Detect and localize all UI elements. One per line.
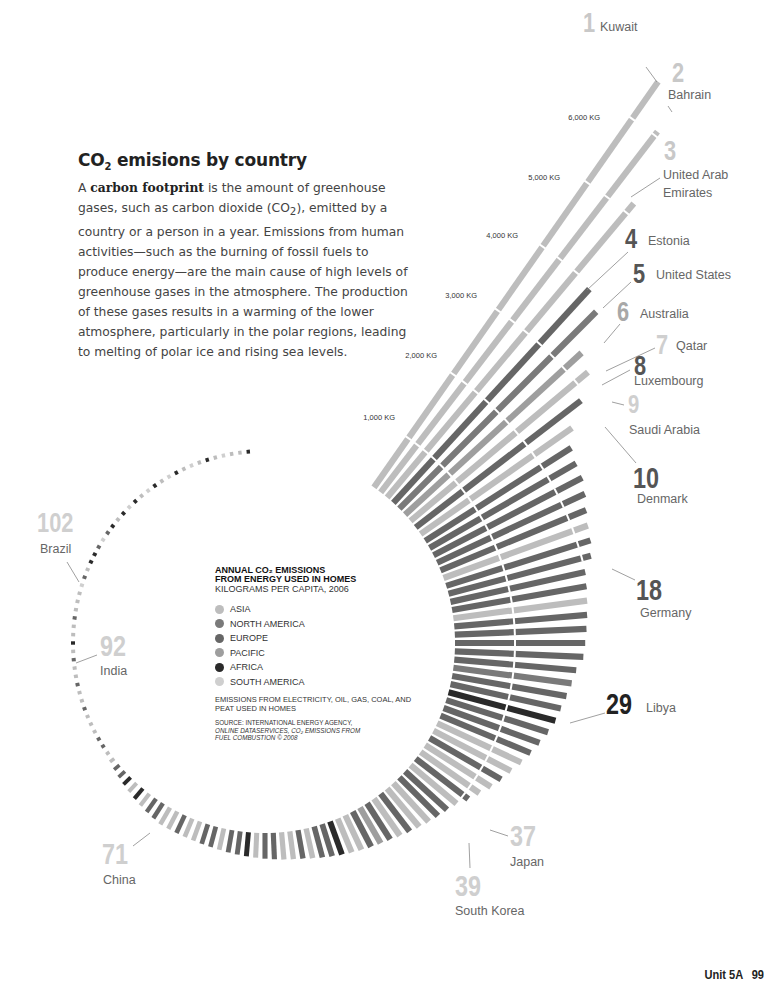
tick-gap — [564, 368, 565, 369]
chart-legend: ANNUAL CO₂ EMISSIONS FROM ENERGY USED IN… — [215, 566, 425, 742]
tick-gap — [555, 491, 557, 492]
bar — [147, 489, 149, 492]
country-name: United States — [656, 268, 731, 282]
bar — [114, 765, 119, 769]
rank-number: 10 — [633, 461, 659, 494]
country-name: Japan — [510, 855, 544, 869]
page-footer: Unit 5A99 — [705, 967, 764, 982]
tick-gap — [506, 578, 508, 579]
bar — [154, 484, 156, 487]
country-label: 6Australia — [604, 295, 689, 343]
radial-bar-chart: 1,000 KG2,000 KG3,000 KG4,000 KG5,000 KG… — [0, 0, 782, 982]
bar — [185, 819, 193, 837]
bar — [116, 518, 119, 521]
bar — [306, 828, 313, 858]
bar — [97, 738, 100, 740]
tick-gap — [587, 182, 588, 184]
bar — [97, 546, 100, 548]
country-name: United Arab — [663, 168, 728, 182]
bar — [183, 467, 185, 471]
bar — [240, 451, 241, 455]
country-label: 92India — [76, 629, 127, 678]
tick-gap — [417, 444, 418, 446]
legend-item: NORTH AMERICA — [215, 617, 425, 632]
tick-gap — [577, 544, 579, 545]
tick-gap — [469, 786, 471, 787]
term-carbon-footprint: carbon footprint — [90, 180, 204, 195]
legend-swatch-icon — [215, 648, 224, 657]
rank-number: 1 — [583, 6, 595, 37]
tick-gap — [449, 473, 450, 474]
bar — [86, 569, 90, 571]
page-number: 99 — [752, 967, 764, 982]
bar — [215, 456, 216, 460]
tick-gap — [491, 748, 493, 749]
leader-line — [490, 830, 508, 836]
rank-number: 5 — [633, 257, 645, 288]
tick-gap — [539, 343, 540, 344]
country-name: Luxembourg — [634, 374, 704, 388]
bar — [273, 833, 274, 859]
bar — [199, 461, 200, 465]
intro-paragraph: A carbon footprint is the amount of gree… — [78, 178, 408, 361]
tick-gap — [551, 355, 552, 356]
bar — [74, 676, 78, 677]
country-label: 29Libya — [570, 687, 676, 723]
tick-gap — [496, 410, 497, 411]
tick-gap — [441, 466, 442, 467]
tick-gap — [497, 310, 498, 312]
tick-gap — [456, 482, 458, 483]
legend-item: AFRICA — [215, 660, 425, 675]
rank-number: 18 — [636, 573, 662, 606]
tick-gap — [502, 718, 504, 719]
bar — [455, 651, 584, 657]
tick-gap — [495, 738, 497, 739]
country-name: Libya — [646, 701, 676, 715]
bar — [202, 824, 208, 844]
bar — [111, 525, 114, 527]
legend-swatch-icon — [215, 634, 224, 643]
country-label: 71China — [102, 833, 150, 887]
leader-line — [606, 348, 655, 371]
legend-item: EUROPE — [215, 631, 425, 646]
rank-number: 4 — [625, 222, 637, 253]
bar — [210, 827, 215, 847]
leader-line — [602, 370, 630, 385]
leader-line — [612, 402, 624, 405]
leader-line — [587, 252, 628, 290]
country-name: Denmark — [637, 492, 688, 506]
tick-gap — [515, 432, 517, 433]
axis-tick-label: 1,000 KG — [363, 413, 395, 422]
legend-item: PACIFIC — [215, 646, 425, 661]
bar — [124, 777, 131, 784]
tick-gap — [542, 246, 543, 248]
bar — [110, 759, 114, 762]
tick-gap — [495, 547, 497, 548]
country-name: Kuwait — [600, 20, 638, 34]
bar — [129, 783, 137, 792]
bar — [160, 808, 170, 825]
bar — [193, 822, 200, 841]
bar — [119, 771, 125, 777]
leader-line — [67, 562, 79, 582]
legend-swatch-icon — [215, 605, 224, 614]
tick-gap — [463, 795, 465, 796]
tick-gap — [548, 479, 550, 480]
leader-line — [631, 178, 660, 197]
tick-gap — [463, 490, 465, 491]
bar — [86, 716, 90, 718]
legend-items: ASIANORTH AMERICAEUROPEPACIFICAFRICASOUT… — [215, 602, 425, 689]
axis-tick-label: 5,000 KG — [528, 173, 560, 182]
country-label: 37Japan — [490, 819, 544, 869]
unit-label: Unit 5A — [705, 967, 744, 982]
rank-number: 29 — [606, 687, 632, 720]
legend-swatch-icon — [215, 619, 224, 628]
bar — [76, 684, 80, 685]
rank-number: 92 — [100, 629, 126, 662]
tick-gap — [469, 499, 471, 500]
tick-gap — [524, 443, 526, 444]
tick-gap — [502, 568, 504, 569]
bar — [80, 700, 84, 701]
leader-line — [469, 843, 470, 868]
bar — [168, 812, 177, 829]
